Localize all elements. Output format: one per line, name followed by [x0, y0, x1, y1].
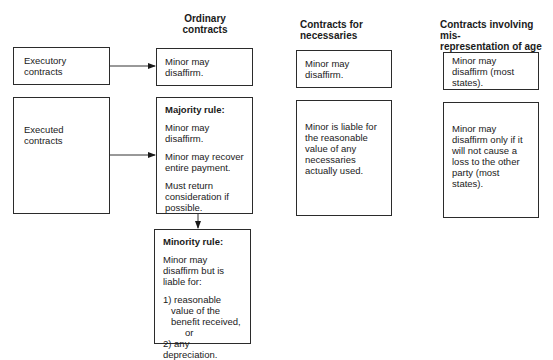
- connector-arrows: [0, 0, 553, 360]
